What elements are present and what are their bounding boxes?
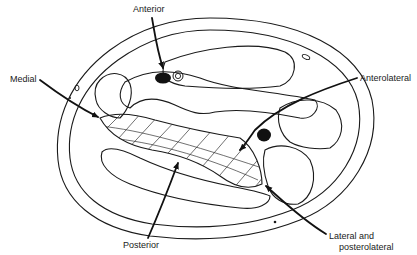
dark-vessel-anterior	[155, 73, 171, 84]
dark-vessel-lateral	[257, 129, 271, 142]
label-medial: Medial	[10, 74, 37, 85]
dot-left	[69, 97, 71, 99]
arrow-anterolateral	[240, 78, 357, 150]
arrow-lateral-posterolateral	[266, 186, 326, 234]
label-anterolateral: Anterolateral	[360, 73, 411, 84]
ring-vessel-anterior-inner	[175, 73, 180, 78]
diagram-canvas: Anterior Medial Anterolateral Posterior …	[0, 0, 417, 255]
small-vessel-upper-right	[302, 53, 311, 60]
anterior-compartment	[120, 72, 317, 118]
label-lateral-and-posterolateral: Lateral and posterolateral	[329, 231, 394, 253]
dot-bottom	[274, 221, 277, 224]
medial-muscle	[95, 74, 131, 118]
small-vessel-left	[75, 85, 79, 91]
label-anterior: Anterior	[133, 4, 165, 15]
posterior-muscle	[101, 149, 270, 209]
label-lateral-line1: Lateral and	[329, 231, 394, 242]
anterior-muscle	[163, 46, 294, 88]
inner-fascia-outline	[69, 30, 359, 227]
outer-skin-outline	[57, 18, 373, 239]
arrow-posterior	[148, 163, 178, 238]
label-posterior: Posterior	[123, 240, 159, 251]
posterolateral-muscle	[264, 146, 314, 204]
hatching	[95, 110, 275, 196]
cross-section-drawing	[0, 0, 417, 255]
lateral-muscle	[278, 100, 341, 149]
label-lateral-line2: posterolateral	[329, 242, 394, 253]
